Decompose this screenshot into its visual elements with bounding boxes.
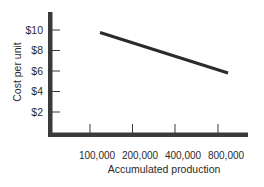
x-ticks xyxy=(90,124,218,133)
x-tick-label: 100,000 xyxy=(79,150,116,161)
y-tick-labels: $10 $8 $6 $4 $2 xyxy=(25,24,43,118)
y-axis-title: Cost per unit xyxy=(11,42,23,102)
x-tick-labels: 100,000 200,000 400,000 800,000 xyxy=(79,150,245,161)
x-tick-label: 200,000 xyxy=(122,150,159,161)
y-tick-label: $6 xyxy=(31,65,43,77)
x-axis-title: Accumulated production xyxy=(108,163,221,175)
y-tick-label: $8 xyxy=(31,44,43,56)
cost-curve-line xyxy=(100,33,228,74)
y-axis xyxy=(48,12,53,137)
y-tick-label: $10 xyxy=(25,24,43,36)
x-axis xyxy=(48,133,248,138)
x-tick-label: 800,000 xyxy=(208,150,245,161)
x-tick-label: 400,000 xyxy=(165,150,202,161)
experience-curve-chart: $10 $8 $6 $4 $2 Cost per unit 100,000 20… xyxy=(0,0,264,187)
y-ticks xyxy=(52,30,60,112)
y-tick-label: $2 xyxy=(31,106,43,118)
y-tick-label: $4 xyxy=(31,85,43,97)
